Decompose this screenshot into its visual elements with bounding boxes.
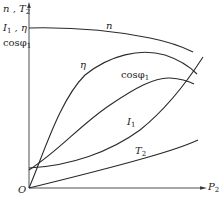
label-cos: cosφ [121, 69, 145, 80]
label-t: T [19, 3, 26, 14]
curve-eta [29, 52, 197, 188]
y-axis-label-cosphi: cosφ1 [3, 38, 31, 50]
curve-i1 [29, 57, 203, 168]
curve-label-i1: I1 [127, 117, 135, 129]
label-sub: 1 [131, 121, 135, 129]
label-sep: , [11, 22, 21, 33]
label-sub: 2 [142, 150, 146, 158]
y-axis-label-n-t2: n , T2 [3, 4, 30, 16]
curve-cosphi [29, 78, 194, 170]
label-sub: 2 [26, 8, 30, 16]
curve-n [29, 28, 193, 52]
curve-label-t2: T2 [135, 146, 146, 158]
x-axis-arrow-icon [200, 186, 207, 190]
label-sub: 2 [215, 186, 219, 194]
label-cos: cosφ [3, 37, 27, 48]
label-t: T [135, 145, 142, 156]
origin-label: O [18, 185, 26, 195]
label-p: P [208, 181, 215, 192]
curve-label-eta: η [80, 60, 86, 70]
curve-t2 [29, 140, 198, 188]
y-axis-label-i1-eta: I1 , η [3, 23, 27, 35]
x-axis-label: P2 [208, 182, 219, 194]
curve-label-n: n [106, 21, 112, 31]
label-sep: , [9, 3, 19, 14]
performance-chart [0, 0, 222, 209]
label-sub: 1 [27, 42, 31, 50]
label-sub: 1 [145, 74, 149, 82]
label-eta: η [21, 22, 27, 33]
curve-label-cosphi: cosφ1 [121, 70, 149, 82]
